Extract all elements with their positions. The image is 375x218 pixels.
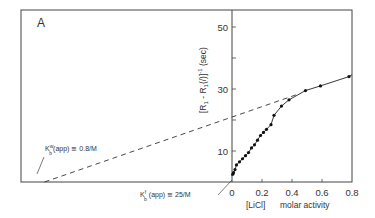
data-point [241,157,244,160]
annotation-kf: Kfb(app) ≅ 25/M [140,189,191,202]
data-point [304,89,307,92]
y-ticks: 103050 [217,22,236,157]
x-tick-label: 0.6 [315,187,328,198]
data-point [319,84,322,87]
data-series [231,75,352,176]
annotation-kw: Kwb(app) ≅ 0.8/M [45,143,97,156]
data-point [247,151,250,154]
x-tick-label: 0 [229,187,234,198]
x-tick-label: 0.8 [345,187,358,198]
x-tick-label: 0.4 [285,187,298,198]
data-point [269,123,272,126]
x-tick-label: 0.2 [255,187,268,198]
data-point [272,114,275,117]
y-tick-label: 30 [217,84,228,95]
y-tick-label: 50 [217,22,228,33]
data-point [232,171,235,174]
data-point [256,139,259,142]
y-tick-label: 10 [217,146,228,157]
panel-label: A [37,16,45,30]
data-point [244,154,247,157]
data-point [280,104,283,107]
x-axis-label-text: molar activity [280,200,330,210]
data-point [238,160,241,163]
data-point [265,128,268,131]
data-point [262,131,265,134]
data-point [347,75,350,78]
chart: 103050 00.20.40.60.8 A [R1 - R1(/)]-1 (s… [0,0,375,218]
data-point [253,143,256,146]
data-point [235,163,238,166]
y-axis-label: [R1 - R1(/)]-1 (sec) [197,47,209,113]
data-point [259,134,262,137]
data-point [250,146,253,149]
data-point [287,98,290,101]
annotation-leader-kw [37,157,44,174]
plot-frame [21,10,352,182]
x-axis-label-bracket: [LiCl] [246,200,265,210]
data-point [233,168,236,171]
extrapolation-dashed-line [45,94,300,182]
